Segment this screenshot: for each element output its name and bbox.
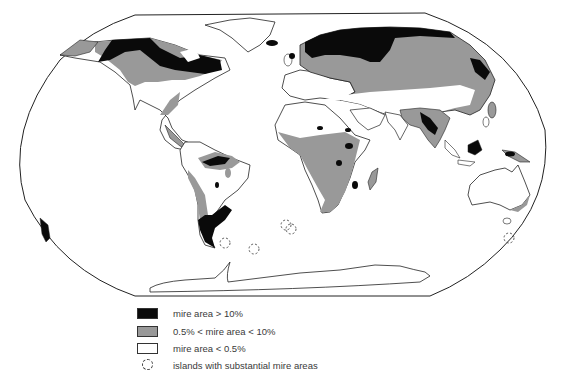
- white-swatch-icon: [137, 343, 158, 354]
- legend-label: islands with substantial mire areas: [173, 359, 318, 372]
- brazil-medium-patch: [225, 168, 231, 178]
- grey-swatch-icon: [137, 326, 158, 337]
- british-isles-high: [289, 53, 295, 59]
- africa-high-2: [345, 128, 351, 132]
- world-mire-map: [0, 0, 573, 300]
- africa-high-3: [345, 143, 353, 149]
- legend-label: mire area < 0.5%: [173, 342, 246, 355]
- legend-label: 0.5% < mire area < 10%: [173, 325, 275, 338]
- legend-item-islands: islands with substantial mire areas: [137, 359, 437, 373]
- new-guinea-high: [505, 152, 515, 157]
- tasmania: [503, 218, 511, 224]
- dashed-circle-icon: [142, 359, 153, 370]
- philippines: [483, 117, 489, 127]
- africa-high-4: [336, 160, 342, 166]
- legend-label: mire area > 10%: [173, 307, 243, 320]
- iceland-high: [266, 40, 278, 46]
- black-swatch-icon: [137, 308, 158, 319]
- legend-item-high: mire area > 10%: [137, 307, 437, 321]
- africa-high-5: [352, 181, 358, 189]
- brazil-high-patch: [215, 182, 219, 188]
- africa-high-1: [317, 126, 323, 130]
- legend-item-low: mire area < 0.5%: [137, 342, 437, 356]
- japan: [488, 102, 496, 118]
- legend-item-medium: 0.5% < mire area < 10%: [137, 325, 437, 339]
